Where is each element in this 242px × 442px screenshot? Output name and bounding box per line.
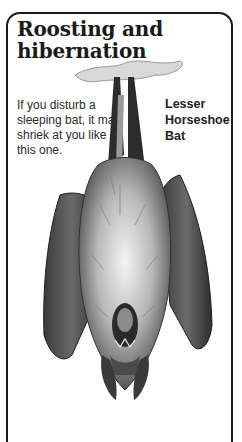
bat-illustration-icon: [20, 55, 225, 405]
title-line-1: Roosting and: [17, 17, 163, 41]
